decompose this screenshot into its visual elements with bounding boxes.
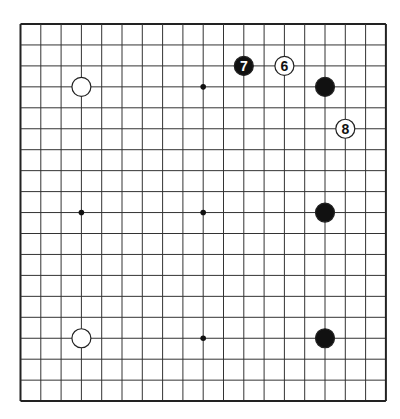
white-stone-8: 8 [336,119,355,138]
star-point [200,210,206,216]
star-point [79,210,85,216]
black-stone [316,77,335,96]
star-point [200,84,206,90]
white-stone [72,77,91,96]
move-number: 6 [281,58,289,74]
stones-layer: 678 [72,56,355,347]
star-point [200,335,206,341]
black-stone [316,329,335,348]
move-number: 8 [341,121,349,137]
black-stone [316,203,335,222]
move-number: 7 [240,58,248,74]
go-board: 678 [0,0,400,419]
white-stone [72,329,91,348]
white-stone-6: 6 [275,56,294,75]
black-stone-7: 7 [234,56,253,75]
